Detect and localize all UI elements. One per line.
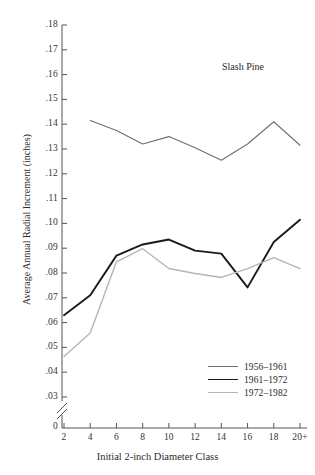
legend-label: 1961–1972 [244,375,288,385]
y-tick-label: .12 [28,168,58,178]
legend-swatch-1972-1982 [208,392,238,393]
y-tick-label: .06 [28,317,58,327]
legend-label: 1956–1961 [244,362,288,372]
chart-annotation-slash-pine: Slash Pine [222,61,264,72]
y-tick-label: .04 [28,366,58,376]
y-axis-title: Average Annual Radial Increment (inches) [21,110,32,330]
y-tick-label: .07 [28,292,58,302]
legend-label: 1972–1982 [244,388,288,398]
y-tick-label: .03 [28,391,58,401]
y-tick-label: .08 [28,267,58,277]
x-axis-title: Initial 2-inch Diameter Class [0,451,315,462]
y-tick-label: .18 [28,19,58,29]
y-tick-label: .05 [28,341,58,351]
chart-series-lines [64,120,300,356]
y-tick-label: .15 [28,93,58,103]
y-tick-label: .14 [28,118,58,128]
x-tick-label: 20+ [285,432,315,442]
legend-swatch-1961-1972 [208,379,238,380]
y-tick-label: .09 [28,242,58,252]
y-tick-label: .11 [28,193,58,203]
chart-legend: 1956–1961 1961–1972 1972–1982 [208,360,288,399]
legend-swatch-1956-1961 [208,366,238,367]
y-tick-label: .13 [28,143,58,153]
y-tick-label: .17 [28,44,58,54]
y-tick-label: .16 [28,69,58,79]
legend-item: 1972–1982 [208,386,288,399]
legend-item: 1961–1972 [208,373,288,386]
legend-item: 1956–1961 [208,360,288,373]
y-tick-label-zero: 0 [28,421,58,431]
chart-figure: .03.04.05.06.07.08.09.10.11.12.13.14.15.… [0,0,315,475]
y-tick-label: .10 [28,217,58,227]
